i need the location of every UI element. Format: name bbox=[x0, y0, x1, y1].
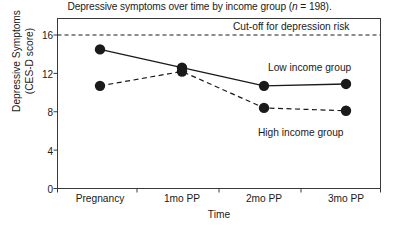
y-axis-title: Depressive Symptoms (CES-D score) bbox=[11, 0, 37, 141]
x-tick-pregnancy: Pregnancy bbox=[55, 193, 145, 204]
chart-figure: Depressive symptoms over time by income … bbox=[0, 0, 399, 230]
x-tick-3mo-pp: 3mo PP bbox=[309, 193, 383, 204]
y-tick-0: 0 bbox=[29, 185, 53, 195]
x-axis-title: Time bbox=[57, 209, 381, 220]
y-axis-title-line1: Depressive Symptoms bbox=[11, 10, 22, 112]
y-axis-title-line2: (CES-D score) bbox=[24, 28, 35, 94]
high-income-group-label: High income group bbox=[258, 127, 344, 138]
x-tick-2mo-pp: 2mo PP bbox=[227, 193, 301, 204]
chart-title-after: = 198). bbox=[298, 1, 332, 12]
chart-title-before: Depressive symptoms over time by income … bbox=[67, 1, 292, 12]
cutoff-line-label: Cut-off for depression risk bbox=[233, 21, 349, 32]
chart-title: Depressive symptoms over time by income … bbox=[0, 1, 399, 12]
low-income-group-label: Low income group bbox=[268, 62, 351, 73]
x-tick-1mo-pp: 1mo PP bbox=[145, 193, 219, 204]
plot-area bbox=[57, 18, 381, 189]
y-tick-4: 4 bbox=[29, 147, 53, 157]
